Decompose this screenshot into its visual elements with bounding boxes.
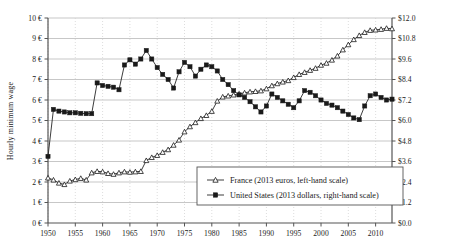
- marker-filled-square: [313, 94, 317, 98]
- marker-filled-square: [341, 109, 345, 113]
- x-tick-label: 2005: [341, 229, 357, 238]
- marker-filled-square: [106, 84, 110, 88]
- x-tick-label: 1985: [231, 229, 247, 238]
- legend-label: France (2013 euros, left-hand scale): [230, 176, 348, 185]
- marker-filled-square: [390, 97, 394, 101]
- marker-filled-square: [275, 95, 279, 99]
- x-tick-label: 1965: [122, 229, 138, 238]
- x-tick-label: 1960: [95, 229, 111, 238]
- marker-filled-square: [324, 101, 328, 105]
- marker-filled-square: [259, 110, 263, 114]
- x-tick-label: 1990: [259, 229, 275, 238]
- marker-filled-square: [379, 95, 383, 99]
- marker-filled-square: [352, 116, 356, 120]
- marker-filled-square: [242, 95, 246, 99]
- marker-filled-square: [221, 77, 225, 81]
- x-tick-label: 2010: [368, 229, 384, 238]
- marker-filled-square: [90, 112, 94, 116]
- marker-filled-square: [139, 57, 143, 61]
- marker-filled-square: [57, 109, 61, 113]
- right-tick-label: $0.0: [398, 219, 412, 228]
- marker-filled-square: [62, 110, 66, 114]
- left-tick-label: 5 €: [32, 116, 42, 125]
- marker-filled-square: [286, 102, 290, 106]
- marker-filled-square: [204, 63, 208, 67]
- right-tick-label: $3.6: [398, 157, 412, 166]
- marker-filled-square: [248, 100, 252, 104]
- marker-filled-square: [384, 98, 388, 102]
- marker-filled-square: [182, 60, 186, 64]
- marker-filled-square: [171, 86, 175, 90]
- right-tick-label: $8.4: [398, 75, 412, 84]
- x-tick-label: 1995: [286, 229, 302, 238]
- marker-filled-square: [213, 193, 217, 197]
- left-tick-label: 3 €: [32, 157, 42, 166]
- legend-label: United States (2013 dollars, right-hand …: [230, 191, 379, 200]
- left-tick-label: 10 €: [28, 14, 42, 23]
- left-tick-label: 2 €: [32, 178, 42, 187]
- marker-filled-square: [150, 57, 154, 61]
- right-tick-label: $7.2: [398, 96, 412, 105]
- marker-filled-square: [210, 65, 214, 69]
- marker-filled-square: [73, 111, 77, 115]
- marker-filled-square: [346, 112, 350, 116]
- marker-filled-square: [368, 94, 372, 98]
- marker-filled-square: [133, 62, 137, 66]
- marker-filled-square: [68, 111, 72, 115]
- x-tick-label: 2000: [313, 229, 329, 238]
- marker-filled-square: [374, 92, 378, 96]
- marker-filled-square: [226, 83, 230, 87]
- x-tick-label: 1975: [177, 229, 193, 238]
- marker-filled-square: [308, 90, 312, 94]
- left-tick-label: 7 €: [32, 75, 42, 84]
- marker-filled-square: [144, 48, 148, 52]
- marker-filled-square: [161, 72, 165, 76]
- marker-filled-square: [193, 74, 197, 78]
- marker-filled-square: [281, 99, 285, 103]
- marker-filled-square: [122, 63, 126, 67]
- legend-item: United States (2013 dollars, right-hand …: [207, 191, 379, 200]
- marker-filled-square: [330, 103, 334, 107]
- left-tick-label: 9 €: [32, 34, 42, 43]
- marker-filled-square: [188, 65, 192, 69]
- y-axis-title: Hourly minimum wage: [6, 82, 15, 161]
- left-tick-label: 1 €: [32, 198, 42, 207]
- x-tick-label: 1950: [40, 229, 56, 238]
- marker-filled-square: [51, 107, 55, 111]
- x-tick-label: 1980: [204, 229, 220, 238]
- right-tick-label: $4.8: [398, 137, 412, 146]
- marker-filled-square: [237, 93, 241, 97]
- marker-filled-square: [215, 69, 219, 73]
- marker-filled-square: [319, 98, 323, 102]
- marker-filled-square: [155, 65, 159, 69]
- marker-filled-square: [177, 70, 181, 74]
- marker-filled-square: [297, 99, 301, 103]
- left-tick-label: 0 €: [32, 219, 42, 228]
- marker-filled-square: [79, 111, 83, 115]
- marker-filled-square: [117, 88, 121, 92]
- marker-filled-square: [357, 118, 361, 122]
- marker-filled-square: [128, 58, 132, 62]
- marker-filled-square: [199, 67, 203, 71]
- marker-filled-square: [363, 104, 367, 108]
- left-tick-label: 6 €: [32, 96, 42, 105]
- marker-filled-square: [46, 154, 50, 158]
- right-tick-label: $12.0: [398, 14, 416, 23]
- marker-filled-square: [84, 112, 88, 116]
- right-tick-label: $6.0: [398, 116, 412, 125]
- chart-background: [0, 0, 453, 252]
- right-tick-label: $10.8: [398, 34, 416, 43]
- marker-filled-square: [253, 105, 257, 109]
- marker-filled-square: [101, 83, 105, 87]
- marker-filled-square: [166, 77, 170, 81]
- right-tick-label: $9.6: [398, 55, 412, 64]
- marker-filled-square: [303, 89, 307, 93]
- left-tick-label: 8 €: [32, 55, 42, 64]
- left-tick-label: 4 €: [32, 137, 42, 146]
- marker-filled-square: [292, 106, 296, 110]
- marker-filled-square: [111, 85, 115, 89]
- chart-legend: France (2013 euros, left-hand scale)Unit…: [197, 167, 403, 205]
- marker-filled-square: [232, 89, 236, 93]
- marker-filled-square: [264, 104, 268, 108]
- x-tick-label: 1955: [68, 229, 84, 238]
